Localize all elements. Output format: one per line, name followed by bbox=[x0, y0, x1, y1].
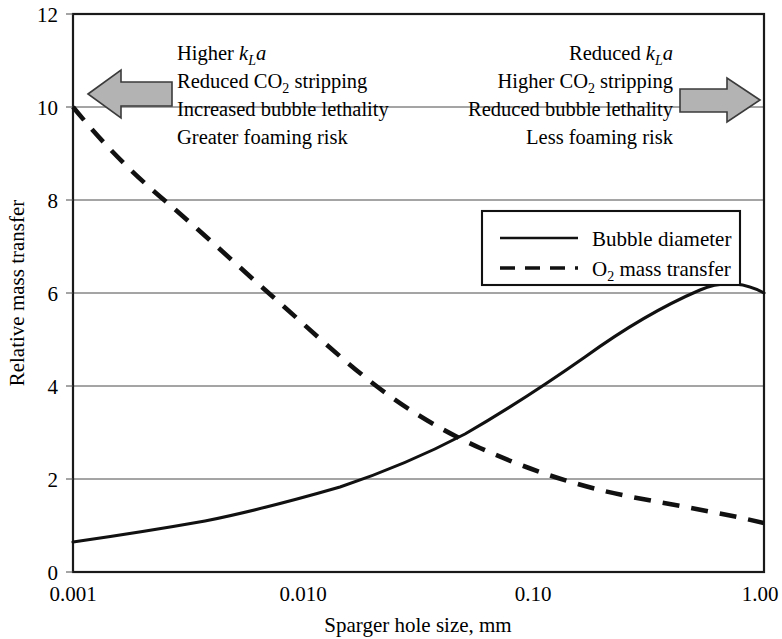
y-ticklabel-12: 12 bbox=[37, 3, 58, 27]
legend-label-bubble-diameter: Bubble diameter bbox=[592, 227, 731, 251]
right-anno-line-4: Less foaming risk bbox=[526, 126, 674, 149]
y-axis-title: Relative mass transfer bbox=[5, 200, 29, 387]
y-ticklabel-4: 4 bbox=[48, 375, 59, 399]
y-ticklabel-10: 10 bbox=[37, 96, 58, 120]
x-axis-title: Sparger hole size, mm bbox=[324, 613, 511, 637]
left-anno-line-3: Increased bubble lethality bbox=[177, 98, 389, 121]
x-ticklabel-0.001: 0.001 bbox=[49, 582, 96, 606]
x-ticklabel-0.10: 0.10 bbox=[515, 582, 552, 606]
y-ticklabel-2: 2 bbox=[48, 468, 59, 492]
chart-svg: 12 10 8 6 4 2 0 Relative mass transfer 0… bbox=[0, 0, 782, 639]
x-ticklabel-1.00: 1.00 bbox=[742, 582, 779, 606]
y-ticklabel-8: 8 bbox=[48, 189, 59, 213]
legend: Bubble diameter O2 mass transfer bbox=[482, 211, 740, 285]
chart-figure: 12 10 8 6 4 2 0 Relative mass transfer 0… bbox=[0, 0, 782, 639]
y-ticklabel-6: 6 bbox=[48, 282, 59, 306]
left-anno-line-4: Greater foaming risk bbox=[177, 126, 349, 149]
right-anno-line-3: Reduced bubble lethality bbox=[468, 98, 674, 121]
x-ticklabel-0.010: 0.010 bbox=[279, 582, 326, 606]
